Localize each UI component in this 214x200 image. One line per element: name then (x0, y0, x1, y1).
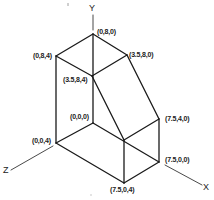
vertex-label: (0,0,4) (32, 137, 51, 145)
vertex-label: (3.5,8,4) (63, 76, 87, 84)
x-axis (165, 165, 202, 185)
vertex-label: (0,0,0) (70, 113, 89, 121)
edge (92, 76, 124, 140)
vertex-label: (3.5,8,0) (129, 51, 153, 59)
edge (56, 143, 124, 183)
edge (127, 55, 159, 119)
edge (93, 34, 127, 55)
edge (92, 55, 127, 76)
edge (124, 119, 159, 140)
z-axis-label: Z (3, 165, 9, 175)
x-axis-label: X (203, 182, 209, 192)
isometric-diagram: Y Z X (0,8,0) (0,8,4) (3.5,8,0) (3.5,8,4… (0, 0, 214, 200)
vertex-label: (7.5,0,0) (165, 156, 189, 164)
y-axis-label: Y (89, 3, 95, 13)
vertex-label: (0,8,4) (33, 52, 52, 60)
z-axis (11, 146, 53, 170)
edge (124, 162, 159, 183)
edge (56, 34, 93, 56)
vertex-label: (0,8,0) (97, 28, 116, 36)
vertex-label: (7.5,0,4) (110, 186, 134, 194)
vertex-label: (7.5,4,0) (165, 115, 189, 123)
edge (56, 123, 93, 143)
edge (56, 56, 92, 76)
edge (93, 123, 159, 162)
